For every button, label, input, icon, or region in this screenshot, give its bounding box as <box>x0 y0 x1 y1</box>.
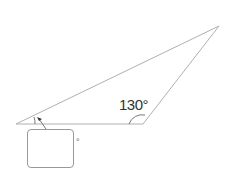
obtuse-angle-arc <box>129 115 145 124</box>
degree-unit: ° <box>76 137 80 147</box>
acute-angle-arc <box>34 117 35 124</box>
answer-input-box[interactable] <box>27 129 74 168</box>
triangle <box>16 26 219 124</box>
pointer-arrowhead <box>37 117 42 121</box>
angle-label-130: 130° <box>119 96 148 113</box>
